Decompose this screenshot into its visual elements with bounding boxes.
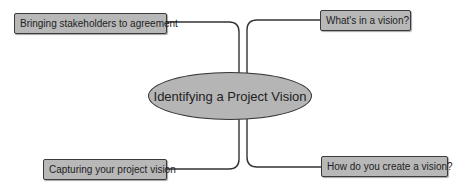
branch-node-bottom-left[interactable]: Capturing your project vision bbox=[43, 159, 167, 180]
branch-label: Capturing your project vision bbox=[49, 164, 176, 175]
branch-label: What's in a vision? bbox=[326, 15, 409, 26]
connector-bottom-right bbox=[247, 119, 321, 167]
central-topic-label: Identifying a Project Vision bbox=[154, 89, 307, 104]
branch-node-top-right[interactable]: What's in a vision? bbox=[320, 10, 411, 31]
branch-node-top-left[interactable]: Bringing stakeholders to agreement bbox=[14, 13, 167, 34]
connector-bottom-left bbox=[167, 119, 239, 169]
branch-label: How do you create a vision? bbox=[327, 161, 453, 172]
branch-node-bottom-right[interactable]: How do you create a vision? bbox=[321, 156, 448, 177]
connector-top-left bbox=[166, 22, 239, 74]
central-topic-ellipse[interactable]: Identifying a Project Vision bbox=[148, 72, 312, 120]
connector-top-right bbox=[247, 20, 320, 73]
branch-label: Bringing stakeholders to agreement bbox=[20, 18, 178, 29]
